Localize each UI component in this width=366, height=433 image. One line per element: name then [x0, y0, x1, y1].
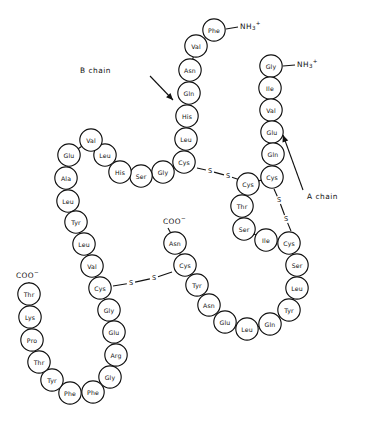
residue-ile: Ile	[255, 229, 277, 251]
residue-label: Cys	[242, 181, 254, 189]
residue-cys: Cys	[278, 232, 300, 254]
residue-label: Leu	[180, 136, 192, 143]
residue-label: Cys	[94, 285, 106, 293]
residue-label: Val	[86, 137, 96, 144]
residue-thr: Thr	[231, 195, 253, 217]
residue-label: His	[182, 113, 192, 120]
residues-layer: PheValAsnGlnHisLeuCysGlySerHisLeuValGluA…	[18, 19, 308, 404]
residue-gln: Gln	[259, 313, 281, 335]
disulfide-link	[113, 284, 127, 286]
a-chain-n-terminus: NH3+	[283, 58, 318, 69]
residue-label: Gln	[268, 151, 279, 158]
residue-label: Gly	[158, 169, 169, 177]
residue-label: Leu	[62, 198, 74, 205]
residue-thr: Thr	[28, 351, 50, 373]
sulfur-atom-label: S	[152, 274, 156, 282]
terminus-label: NH3+	[240, 20, 261, 31]
residue-label: Leu	[241, 326, 253, 333]
residue-tyr: Tyr	[278, 299, 300, 321]
residue-label: Ser	[136, 173, 147, 180]
residue-label: Cys	[179, 262, 191, 270]
residue-gln: Gln	[178, 82, 200, 104]
sulfur-atom-label: S	[208, 167, 212, 175]
terminus-superscript: +	[313, 58, 318, 64]
residue-label: Glu	[64, 152, 75, 159]
terminus-label: COO−	[163, 215, 186, 226]
terminus-superscript: −	[34, 269, 39, 275]
residue-label: Ala	[61, 175, 71, 182]
residue-asn: Asn	[198, 294, 220, 316]
residue-label: His	[115, 169, 125, 176]
residue-ser: Ser	[286, 254, 308, 276]
arrow-head	[282, 135, 288, 142]
residue-label: Tyr	[70, 219, 81, 227]
residue-val: Val	[260, 99, 282, 121]
residue-thr: Thr	[18, 283, 40, 305]
residue-asn: Asn	[179, 59, 201, 81]
residue-label: Glu	[109, 329, 120, 336]
residue-leu: Leu	[73, 233, 95, 255]
residue-gly: Gly	[152, 161, 174, 183]
bridge-b7-a7: SS	[197, 167, 240, 180]
residue-ser: Ser	[233, 218, 255, 240]
residue-label: Leu	[99, 152, 111, 159]
b-chain-arrow	[150, 76, 173, 100]
residue-label: Val	[191, 43, 201, 50]
b-chain-n-terminus: NH3+	[226, 20, 261, 31]
residue-label: Asn	[203, 302, 215, 309]
residue-phe: Phe	[82, 381, 104, 403]
residue-label: Thr	[33, 359, 45, 366]
residue-label: Gly	[105, 374, 116, 382]
disulfide-link	[135, 279, 150, 282]
residue-label: Thr	[236, 203, 248, 210]
residue-leu: Leu	[175, 128, 197, 150]
residue-glu: Glu	[103, 321, 125, 343]
residue-label: Gly	[266, 63, 277, 71]
terminus-label: COO−	[16, 269, 39, 280]
residue-label: Tyr	[46, 377, 57, 385]
residue-glu: Glu	[261, 121, 283, 143]
sulfur-atom-label: S	[284, 215, 288, 223]
residue-gln: Gln	[262, 143, 284, 165]
residue-tyr: Tyr	[65, 211, 87, 233]
residue-label: Arg	[110, 352, 121, 360]
residue-label: Phe	[208, 27, 220, 34]
bridge-b19-a20: SS	[113, 272, 172, 287]
residue-ala: Ala	[55, 167, 77, 189]
residue-cys: Cys	[89, 277, 111, 299]
residue-label: Cys	[266, 174, 278, 182]
residue-label: Gln	[184, 90, 195, 97]
residue-gly: Gly	[98, 299, 120, 321]
residue-label: Tyr	[191, 282, 202, 290]
sulfur-atom-label: S	[129, 279, 133, 287]
residue-cys: Cys	[237, 173, 259, 195]
sulfur-atom-label: S	[226, 172, 230, 180]
residue-glu: Glu	[58, 144, 80, 166]
residue-label: Ser	[292, 262, 303, 269]
b-chain-annotation-label: B chain	[80, 66, 111, 75]
bridge-a6-a11: SS	[274, 189, 291, 231]
sulfur-atom-label: S	[277, 196, 281, 204]
residue-phe: Phe	[203, 19, 225, 41]
disulfide-link	[214, 172, 224, 175]
insulin-structure-diagram: SSSSSS NH3+NH3+COO−COO− PheValAsnGlnHisL…	[0, 0, 366, 433]
residue-label: Gln	[265, 321, 276, 328]
disulfide-link	[288, 223, 291, 231]
residue-label: Cys	[178, 159, 190, 167]
residue-ile: Ile	[259, 77, 281, 99]
residue-tyr: Tyr	[186, 274, 208, 296]
residue-label: Asn	[169, 240, 181, 247]
residue-asn: Asn	[164, 232, 186, 254]
a-chain-annotation-label: A chain	[307, 192, 338, 201]
residue-label: Phe	[64, 390, 76, 397]
terminus-subscript: 3	[252, 25, 256, 31]
terminus-bond	[226, 27, 238, 29]
residue-leu: Leu	[286, 277, 308, 299]
residue-label: Lys	[25, 314, 35, 322]
residue-arg: Arg	[105, 344, 127, 366]
residue-gly: Gly	[260, 55, 282, 77]
terminus-label: NH3+	[297, 58, 318, 69]
residue-label: Ser	[239, 226, 250, 233]
residue-label: Ile	[266, 85, 274, 92]
disulfide-link	[280, 204, 284, 215]
